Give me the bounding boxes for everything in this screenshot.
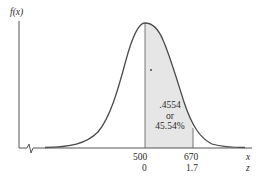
area-annotation: .4554 or 45.54% <box>147 100 193 132</box>
x-tick-670: 670 <box>184 152 198 162</box>
z-tick-1-7: 1.7 <box>186 163 198 173</box>
area-percent: 45.54% <box>147 121 193 132</box>
y-axis-label: f(x) <box>10 7 23 17</box>
x-axis-label: x <box>246 152 250 162</box>
center-dot <box>150 69 152 71</box>
z-tick-0: 0 <box>142 163 147 173</box>
z-axis-label: z <box>246 163 250 173</box>
x-tick-500: 500 <box>133 152 147 162</box>
area-or: or <box>147 111 193 122</box>
area-probability: .4554 <box>147 100 193 111</box>
